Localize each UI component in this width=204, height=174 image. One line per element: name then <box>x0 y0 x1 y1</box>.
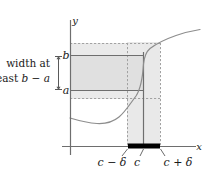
leader-line-c-plus-delta <box>161 149 166 156</box>
y-axis-label: y <box>71 15 78 26</box>
y-tick-label-a: a <box>63 84 70 97</box>
oscillation-delta-diagram: y x b a width at least b − a c − δ c c +… <box>0 0 204 174</box>
annotation-line-2-prefix: least <box>0 72 22 84</box>
annotation-line-1: width at <box>6 57 51 69</box>
oscillation-rectangle-shading <box>70 55 144 90</box>
x-axis-label: x <box>196 141 202 152</box>
leader-line-c-minus-delta <box>122 149 128 156</box>
upper-margin-shading <box>70 43 144 55</box>
annotation-line-2: least b − a <box>0 72 50 84</box>
x-tick-label-c-minus-delta: c − δ <box>98 156 127 169</box>
lower-margin-shading <box>70 90 144 99</box>
y-tick-label-b: b <box>62 49 69 62</box>
x-tick-label-c-plus-delta: c + δ <box>164 156 193 169</box>
figure-canvas: y x b a width at least b − a c − δ c c +… <box>0 0 204 174</box>
delta-interval-bar <box>128 144 160 149</box>
x-tick-label-c: c <box>134 156 140 169</box>
annotation-line-2-math: b − a <box>22 72 50 84</box>
leader-line-c <box>140 149 144 156</box>
